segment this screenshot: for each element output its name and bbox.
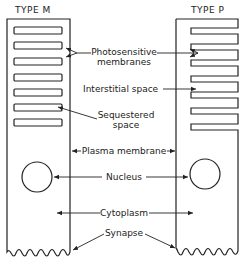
type-m-nucleus	[22, 162, 52, 192]
photoreceptor-diagram: TYPE M TYPE P Photosensitive membranes I…	[0, 0, 246, 261]
sequestered-pointer	[58, 107, 97, 119]
label-nucleus: Nucleus	[106, 172, 142, 182]
synapse-pointer-right	[145, 234, 175, 248]
label-cytoplasm: Cytoplasm	[100, 208, 148, 218]
synapse-pointer-left	[73, 234, 104, 250]
label-plasma-membrane: Plasma membrane	[82, 146, 167, 156]
type-p-nucleus	[190, 159, 220, 189]
sequestered-discs	[14, 27, 62, 126]
label-photosensitive-1: Photosensitive	[91, 47, 157, 57]
type-m-cell	[7, 19, 70, 256]
label-sequestered-1: Sequestered	[98, 110, 155, 120]
type-p-title: TYPE P	[190, 5, 224, 15]
label-synapse: Synapse	[105, 228, 144, 238]
label-sequestered-2: space	[113, 120, 140, 130]
type-m-title: TYPE M	[14, 5, 51, 15]
type-p-cell	[176, 19, 238, 255]
label-interstitial: Interstitial space	[83, 84, 159, 94]
label-photosensitive-2: membranes	[97, 57, 151, 67]
